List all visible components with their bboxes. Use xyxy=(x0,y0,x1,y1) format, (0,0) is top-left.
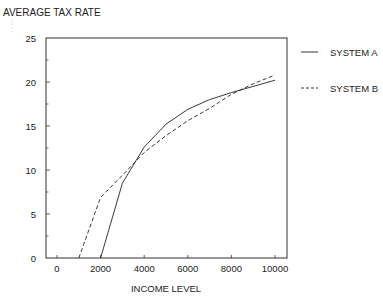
x-tick-label: 10000 xyxy=(262,263,288,274)
legend-label: SYSTEM A xyxy=(330,47,378,58)
legend: SYSTEM ASYSTEM B xyxy=(301,47,378,94)
x-axis-label: INCOME LEVEL xyxy=(131,283,201,294)
chart-title: AVERAGE TAX RATE xyxy=(3,7,101,18)
x-tick-label: 6000 xyxy=(177,263,198,274)
x-tick-label: 4000 xyxy=(134,263,155,274)
plot-frame xyxy=(46,38,287,258)
x-tick-label: 0 xyxy=(54,263,59,274)
series-group xyxy=(79,75,275,258)
x-tick-label: 8000 xyxy=(221,263,242,274)
y-tick-label: 5 xyxy=(31,209,36,220)
y-tick-label: 15 xyxy=(25,121,36,132)
tax-rate-chart: AVERAGE TAX RATE 0510152025 020004000600… xyxy=(0,0,383,299)
y-tick-label: 25 xyxy=(25,33,36,44)
y-tick-label: 0 xyxy=(31,253,36,264)
x-tick-label: 2000 xyxy=(90,263,111,274)
legend-label: SYSTEM B xyxy=(330,83,378,94)
y-tick-label: 10 xyxy=(25,165,36,176)
y-tick-label: 20 xyxy=(25,77,36,88)
series-line-system-a xyxy=(101,80,275,258)
